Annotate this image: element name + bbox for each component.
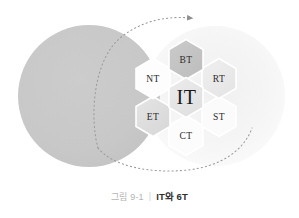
hexagon-et-label: ET [147, 112, 159, 122]
caption-number: 그림 9-1 [111, 190, 144, 203]
venn-hexagon-diagram: CT ET ST NT RT [0, 0, 299, 185]
hexagon-ct-label: CT [180, 131, 193, 141]
hexagon-bt-label: BT [180, 55, 193, 65]
caption-separator: | [149, 191, 151, 201]
hexagon-nt-label: NT [146, 74, 159, 84]
left-circle [18, 25, 160, 167]
figure-container: CT ET ST NT RT [0, 0, 299, 218]
hexagon-st-label: ST [213, 112, 225, 122]
caption-title: IT와 6T [156, 189, 188, 203]
figure-caption: 그림 9-1 | IT와 6T [0, 186, 299, 206]
hexagon-rt-label: RT [213, 74, 225, 84]
hexagon-it-label: IT [177, 86, 197, 108]
